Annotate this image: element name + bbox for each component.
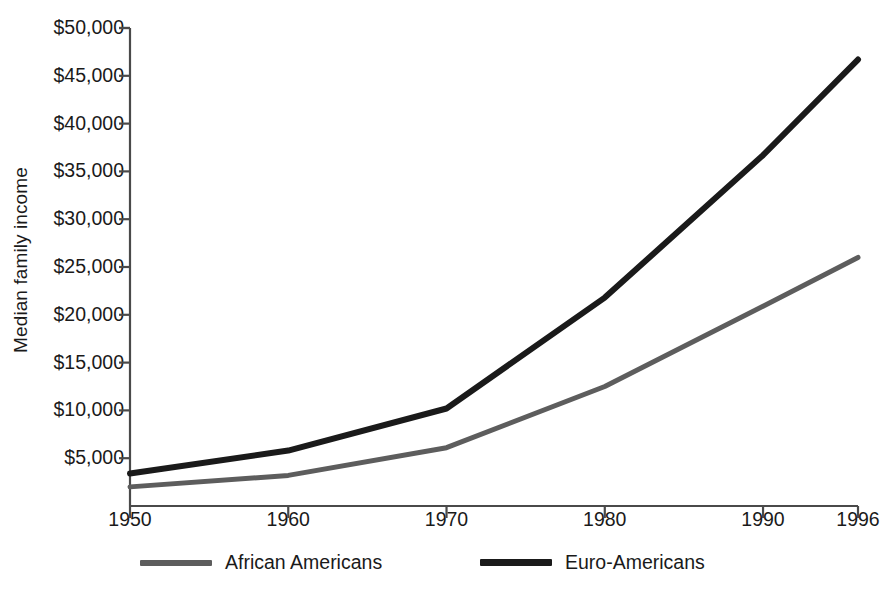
legend-item[interactable]: African Americans — [140, 553, 382, 573]
legend-label: Euro-Americans — [565, 553, 705, 573]
series-line-euro-americans — [130, 60, 858, 474]
legend-swatch-icon — [140, 560, 212, 566]
chart-legend: African AmericansEuro-Americans — [0, 545, 874, 585]
legend-label: African Americans — [225, 553, 382, 573]
legend-item[interactable]: Euro-Americans — [480, 553, 705, 573]
legend-swatch-icon — [480, 559, 552, 566]
